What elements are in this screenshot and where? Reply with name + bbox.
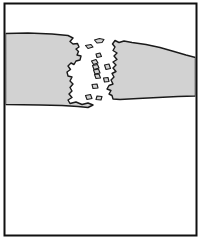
fragment-bottom-a bbox=[86, 95, 93, 100]
fragment-right-low bbox=[104, 78, 110, 83]
fragment-mid-small-a bbox=[96, 53, 102, 58]
fragment-chain-1 bbox=[92, 60, 99, 65]
figure-container bbox=[0, 0, 205, 243]
fragment-right-mid bbox=[105, 64, 111, 70]
fragment-bottom-b bbox=[96, 96, 102, 100]
fragment-chain-3 bbox=[94, 69, 101, 74]
fragment-center-low bbox=[92, 84, 98, 89]
fragment-upper-sliver bbox=[95, 39, 105, 44]
fracture-figure-svg bbox=[0, 0, 205, 243]
fragment-chain-4 bbox=[95, 74, 101, 79]
